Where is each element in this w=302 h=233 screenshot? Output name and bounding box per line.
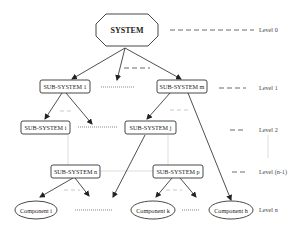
subsystem-i-node[interactable]: SUB-SYSTEM i [21, 121, 70, 134]
subsystem-1-node[interactable]: SUB-SYSTEM 1 [40, 80, 90, 93]
subsystem-i-label: SUB-SYSTEM i [25, 124, 67, 131]
level-1-label: Level 1 [259, 84, 278, 91]
level-n-label: Level n [259, 206, 278, 213]
subsystem-n-node[interactable]: SUB-SYSTEM n [51, 165, 100, 178]
system-label: SYSTEM [111, 26, 144, 35]
subsystem-p-node[interactable]: SUB-SYSTEM p [153, 165, 203, 178]
component-h-node[interactable]: Component h [209, 201, 253, 219]
subsystem-m-label: SUB-SYSTEM m [160, 83, 205, 90]
subsystem-1-label: SUB-SYSTEM 1 [43, 83, 86, 90]
level-legend: Level 0 Level 1 Level 2 Level (n-1) Leve… [170, 26, 287, 213]
component-k-label: Component k [136, 207, 170, 214]
component-k-node[interactable]: Component k [131, 201, 175, 219]
level-n-minus-1-label: Level (n-1) [259, 168, 287, 176]
system-node[interactable]: SYSTEM [96, 14, 158, 46]
hierarchy-diagram: SYSTEM SUB-SYSTEM 1 SUB-SYSTEM m SUB-SYS… [0, 0, 302, 233]
sibling-ellipsis [75, 87, 200, 210]
component-h-label: Component h [214, 207, 248, 214]
subsystem-j-node[interactable]: SUB-SYSTEM j [125, 121, 176, 134]
component-i-label: Component i [20, 207, 52, 214]
level-0-label: Level 0 [259, 26, 278, 33]
subsystem-p-label: SUB-SYSTEM p [156, 168, 199, 175]
subsystem-n-label: SUB-SYSTEM n [54, 168, 97, 175]
subsystem-j-label: SUB-SYSTEM j [130, 124, 172, 131]
level-2-label: Level 2 [259, 126, 278, 133]
subsystem-m-node[interactable]: SUB-SYSTEM m [157, 80, 207, 93]
component-i-node[interactable]: Component i [15, 201, 57, 219]
